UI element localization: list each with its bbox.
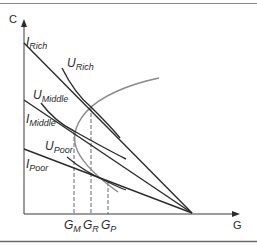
y-axis-label: C bbox=[9, 14, 17, 25]
budget-line-rich bbox=[24, 43, 192, 213]
x-axis-label: G bbox=[233, 220, 242, 231]
tick-label-gm: GM bbox=[64, 219, 81, 234]
c-axis-arrow-icon bbox=[21, 19, 27, 27]
tick-label-gp: GP bbox=[101, 219, 116, 234]
label-i-rich: IRich bbox=[26, 36, 47, 51]
tick-label-gr: GR bbox=[83, 219, 99, 234]
label-u-poor: UPoor bbox=[45, 140, 73, 155]
label-i-middle: IMiddle bbox=[26, 113, 56, 128]
label-u-middle: UMiddle bbox=[33, 89, 68, 104]
label-i-poor: IPoor bbox=[26, 158, 48, 173]
label-u-rich: URich bbox=[67, 57, 94, 72]
g-axis-arrow-icon bbox=[232, 211, 240, 217]
